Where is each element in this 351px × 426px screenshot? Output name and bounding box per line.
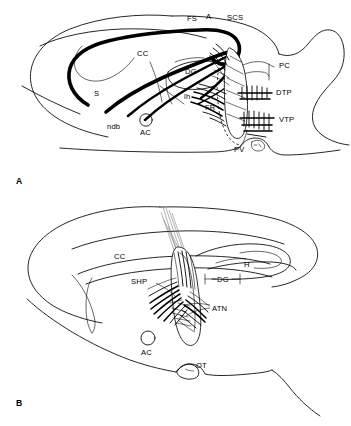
panel-a-ventral-surface	[60, 147, 240, 152]
panel-a-label-a: A	[206, 12, 212, 21]
panel-b-ot-mound	[176, 364, 272, 376]
panel-b-inner-cortex	[72, 231, 284, 249]
panel-b-label-dg: DG	[217, 275, 229, 284]
panel-b-dg-bracket-left	[205, 274, 216, 284]
panel-b-anterior-commissure-circle	[141, 331, 155, 345]
panel-b-dg-bracket-right	[232, 274, 240, 284]
panel-b-leader-ot	[185, 369, 194, 371]
panel-a-label-ac: AC	[140, 128, 151, 137]
panel-a-label-fs: FS	[187, 14, 197, 23]
panel-b-label-ot: OT	[196, 361, 207, 370]
panel-a-label-dtp: DTP	[276, 88, 292, 97]
panel-b-label-h: H	[244, 260, 250, 269]
panel-b-label-cc: CC	[114, 252, 126, 261]
panel-b-label-shp: SHP	[131, 277, 147, 286]
panel-b-ventral-right	[272, 370, 320, 416]
panel-a: FS A SCS CC H DG PC S lh DTP FR ndb AC V…	[16, 12, 349, 186]
panel-b-brain-outline	[28, 207, 160, 323]
panel-a-label-cc: CC	[137, 49, 149, 58]
panel-a-label-scs: SCS	[227, 13, 243, 22]
panel-b-identifier: B	[16, 398, 22, 408]
panel-b-electrode-track	[161, 207, 185, 252]
panel-a-label-pc: PC	[279, 61, 290, 70]
panel-a-pv-detail	[254, 144, 261, 147]
panel-a-label-vtp: VTP	[279, 115, 294, 124]
panel-b-septum-fold	[72, 275, 95, 333]
panel-a-label-ndb: ndb	[107, 122, 120, 131]
panel-a-label-pv: PV	[234, 145, 245, 154]
panel-a-label-dg: DG	[185, 67, 197, 76]
panel-a-identifier: A	[16, 176, 22, 186]
figure-canvas: FS A SCS CC H DG PC S lh DTP FR ndb AC V…	[0, 0, 351, 426]
panel-b-ventral-surface	[27, 299, 176, 372]
panel-a-pv-structure	[251, 140, 264, 151]
panel-a-fimbria-inner	[160, 86, 184, 104]
panel-b-label-atn: ATN	[212, 304, 227, 313]
panel-b-label-ac: AC	[141, 348, 152, 357]
figure-svg: FS A SCS CC H DG PC S lh DTP FR ndb AC V…	[0, 0, 351, 426]
panel-a-label-h: H	[209, 53, 215, 62]
panel-a-label-lh: lh	[184, 92, 190, 101]
panel-b: CC H DG SHP ATN AC OT B	[16, 207, 320, 416]
panel-a-label-s: S	[94, 89, 99, 98]
panel-a-label-fr: FR	[205, 103, 216, 112]
